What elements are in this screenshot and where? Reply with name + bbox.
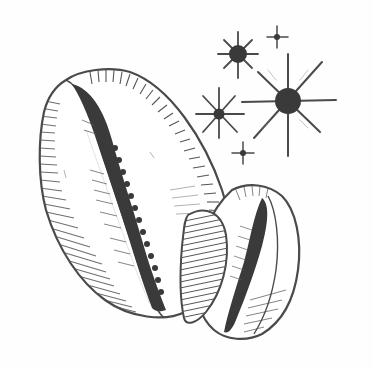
illustration-canvas xyxy=(0,0,373,369)
cowrie-shells-illustration xyxy=(0,0,373,369)
sparkle-large xyxy=(242,54,336,156)
sparkle-small-bottom xyxy=(232,142,254,164)
sparkle-small-top-right xyxy=(267,26,288,48)
sparkle-medium-top xyxy=(218,32,258,78)
sparkle-medium-left xyxy=(196,88,244,138)
